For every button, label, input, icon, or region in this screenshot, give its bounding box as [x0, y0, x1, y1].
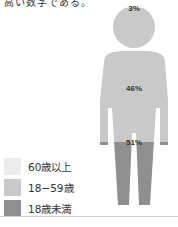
divider: [0, 216, 178, 217]
segment-under-18: [90, 142, 178, 222]
value-label-60-plus: 3%: [128, 4, 140, 13]
legend-label: 60歳以上: [28, 159, 71, 174]
segment-18-59: [90, 8, 178, 142]
swatch-60-plus: [4, 158, 21, 175]
legend-label: 18−59歳: [28, 180, 74, 195]
legend-item-18-59: 18−59歳: [4, 177, 74, 197]
legend-label: 18歳未満: [28, 201, 71, 216]
legend-item-60-plus: 60歳以上: [4, 156, 74, 176]
swatch-18-59: [4, 179, 21, 196]
value-label-18-59: 46%: [126, 84, 142, 93]
swatch-under-18: [4, 200, 21, 217]
legend-item-under-18: 18歳未満: [4, 198, 74, 218]
legend: 60歳以上 18−59歳 18歳未満: [4, 156, 74, 219]
value-label-under-18: 51%: [126, 138, 142, 147]
